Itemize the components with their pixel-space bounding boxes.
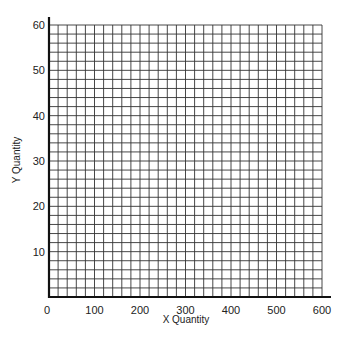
x-tick-label: 100 bbox=[85, 304, 103, 316]
y-tick-labels: 102030405060 bbox=[33, 19, 45, 258]
y-tick-label: 10 bbox=[33, 246, 45, 258]
x-tick-label: 600 bbox=[313, 304, 331, 316]
x-tick-label: 500 bbox=[267, 304, 285, 316]
y-tick-label: 20 bbox=[33, 200, 45, 212]
x-tick-label: 200 bbox=[131, 304, 149, 316]
y-tick-label: 40 bbox=[33, 110, 45, 122]
y-tick-label: 30 bbox=[33, 155, 45, 167]
x-axis-title: X Quantity bbox=[163, 314, 210, 325]
y-tick-label: 60 bbox=[33, 19, 45, 31]
y-tick-label: 50 bbox=[33, 64, 45, 76]
x-tick-label: 0 bbox=[44, 304, 50, 316]
y-axis-title: Y Quantity bbox=[11, 137, 22, 184]
grid-lines bbox=[49, 25, 322, 297]
blank-graph-paper-chart: 102030405060 0100200300400500600 X Quant… bbox=[0, 0, 348, 339]
x-tick-label: 400 bbox=[222, 304, 240, 316]
